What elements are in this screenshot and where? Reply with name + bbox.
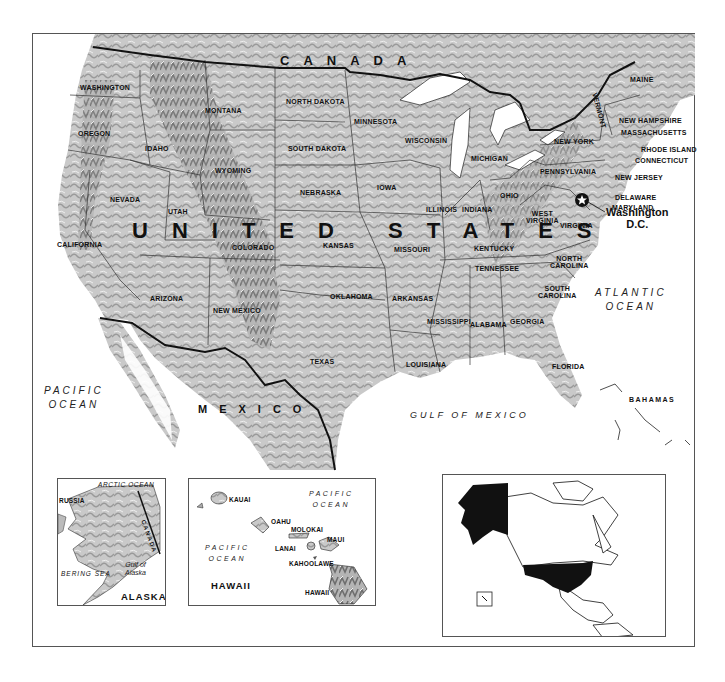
state-label-minnesota: MINNESOTA bbox=[354, 118, 397, 125]
state-label-connecticut: CONNECTICUT bbox=[635, 157, 688, 164]
state-label-indiana: INDIANA bbox=[462, 206, 493, 213]
state-label-california: CALIFORNIA bbox=[57, 241, 102, 248]
state-label-montana: MONTANA bbox=[205, 107, 242, 114]
alaska-inset: ARCTIC OCEAN RUSSIA CANADA BERING SEA Gu… bbox=[57, 478, 166, 606]
state-label-illinois: ILLINOIS bbox=[426, 206, 457, 213]
state-label-north-carolina: NORTH CAROLINA bbox=[550, 255, 589, 269]
state-label-delaware: DELAWARE bbox=[615, 194, 656, 201]
molokai-label: MOLOKAI bbox=[291, 527, 323, 534]
state-label-nevada: NEVADA bbox=[110, 196, 140, 203]
state-label-new-york: NEW YORK bbox=[554, 138, 594, 145]
alaska-title: ALASKA bbox=[121, 591, 166, 602]
state-label-missouri: MISSOURI bbox=[394, 246, 430, 253]
kauai-label: KAUAI bbox=[229, 497, 251, 504]
state-label-colorado: COLORADO bbox=[232, 244, 274, 251]
pacific-ocean-label: PACIFIC OCEAN bbox=[44, 384, 104, 411]
state-label-south-dakota: SOUTH DAKOTA bbox=[288, 145, 346, 152]
gulf-of-mexico-label: GULF OF MEXICO bbox=[410, 409, 529, 421]
state-label-rhode-island: RHODE ISLAND bbox=[641, 146, 697, 153]
state-label-washington: WASHINGTON bbox=[80, 84, 130, 91]
bahamas-label: BAHAMAS bbox=[629, 396, 675, 403]
state-label-iowa: IOWA bbox=[377, 184, 396, 191]
state-label-arizona: ARIZONA bbox=[150, 295, 183, 302]
hawaii-title: HAWAII bbox=[211, 580, 251, 591]
state-label-texas: TEXAS bbox=[310, 358, 334, 365]
state-label-massachusetts: MASSACHUSETTS bbox=[621, 129, 687, 136]
bering-sea-label: BERING SEA bbox=[61, 571, 111, 578]
mexico-label: MEXICO bbox=[198, 403, 313, 415]
state-label-tennessee: TENNESSEE bbox=[475, 265, 519, 272]
maui-label: MAUI bbox=[327, 537, 344, 544]
russia-label: RUSSIA bbox=[59, 498, 85, 505]
state-label-mississippi: MISSISSIPPI bbox=[427, 318, 471, 325]
bahamas-islands bbox=[600, 384, 690, 445]
hawaii-inset: KAUAI OAHU MOLOKAI MAUI LANAI KAHOOLAWE … bbox=[188, 478, 376, 606]
state-label-georgia: GEORGIA bbox=[510, 318, 544, 325]
pacific-ocean-w-label: PACIFIC OCEAN bbox=[205, 543, 250, 564]
state-label-pennsylvania: PENNSYLVANIA bbox=[540, 168, 596, 175]
state-label-maine: MAINE bbox=[630, 76, 654, 83]
arctic-ocean-label: ARCTIC OCEAN bbox=[98, 482, 154, 489]
lanai-label: LANAI bbox=[275, 546, 296, 553]
state-label-south-carolina: SOUTH CAROLINA bbox=[538, 285, 577, 299]
state-label-new-hampshire: NEW HAMPSHIRE bbox=[619, 117, 682, 124]
state-label-michigan: MICHIGAN bbox=[471, 155, 508, 162]
state-label-oregon: OREGON bbox=[78, 130, 110, 137]
locator-inset bbox=[442, 474, 666, 637]
state-label-florida: FLORIDA bbox=[552, 363, 585, 370]
state-label-kentucky: KENTUCKY bbox=[474, 245, 515, 252]
state-label-utah: UTAH bbox=[168, 208, 188, 215]
atlantic-ocean-label: ATLANTIC OCEAN bbox=[595, 286, 667, 313]
state-label-alabama: ALABAMA bbox=[470, 321, 507, 328]
state-label-oklahoma: OKLAHOMA bbox=[330, 293, 373, 300]
state-label-nebraska: NEBRASKA bbox=[300, 189, 341, 196]
pacific-ocean-ne-label: PACIFIC OCEAN bbox=[309, 489, 354, 510]
united-states-label: UNITED STATES bbox=[132, 218, 616, 244]
state-label-new-mexico: NEW MEXICO bbox=[213, 307, 261, 314]
gulf-of-alaska-label: Gulf of Alaska bbox=[125, 561, 146, 578]
state-label-arkansas: ARKANSAS bbox=[392, 295, 433, 302]
washington-dc-label: Washington D.C. bbox=[606, 207, 669, 230]
state-label-louisiana: LOUISIANA bbox=[406, 361, 446, 368]
star-icon bbox=[575, 193, 589, 207]
canada-label: CANADA bbox=[280, 53, 420, 68]
state-label-ohio: OHIO bbox=[500, 192, 519, 199]
kahoolawe-label: KAHOOLAWE bbox=[289, 561, 334, 568]
state-label-wisconsin: WISCONSIN bbox=[405, 137, 447, 144]
hawaii-island-label: HAWAII bbox=[305, 590, 329, 597]
state-label-idaho: IDAHO bbox=[145, 145, 169, 152]
state-label-new-jersey: NEW JERSEY bbox=[615, 174, 663, 181]
north-america-locator bbox=[443, 475, 666, 637]
state-label-north-dakota: NORTH DAKOTA bbox=[286, 98, 345, 105]
oahu-label: OAHU bbox=[271, 519, 291, 526]
state-label-wyoming: WYOMING bbox=[215, 167, 251, 174]
